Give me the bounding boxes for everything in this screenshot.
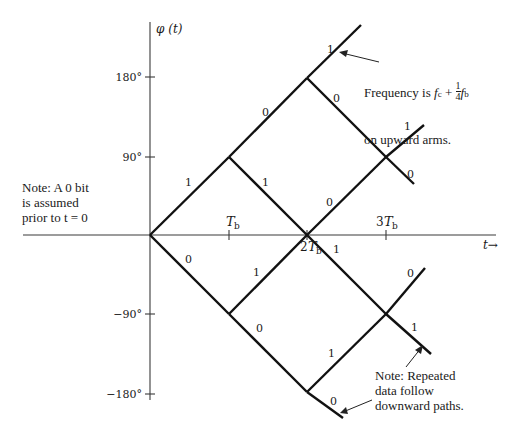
y-tick-label-neg180: −180° — [106, 388, 142, 401]
path-E-C — [229, 235, 307, 314]
note-frequency-line1: Frequency is fc + 14fb — [364, 85, 469, 102]
note-initial-bit: Note: A 0 bit is assumed prior to t = 0 — [22, 180, 89, 225]
phase-trellis-diagram: φ (t) t→ 180° 90° −90° −180° T b 2 T b 3… — [0, 0, 522, 438]
bit-label-G-down: 1 — [411, 321, 418, 334]
bit-label-B-up: 1 — [327, 43, 334, 56]
bit-label-E-C: 1 — [253, 266, 260, 279]
frequency-arrow-head — [339, 50, 348, 57]
svg-text:b: b — [316, 246, 322, 256]
path-O-E — [150, 235, 229, 314]
x-tick-label-Tb: T b — [226, 214, 240, 231]
bit-label-E-F: 0 — [256, 322, 263, 335]
bit-label-C-G: 1 — [333, 243, 340, 256]
note-frequency-line2: on upward arms. — [364, 132, 469, 147]
path-O-A — [150, 157, 229, 235]
path-G-down — [386, 314, 431, 354]
path-A-C — [229, 157, 307, 235]
bit-label-F-G: 1 — [328, 347, 335, 360]
note-frequency: Frequency is fc + 14fb on upward arms. — [364, 55, 469, 177]
x-axis-label: t→ — [483, 238, 498, 252]
svg-text:2: 2 — [300, 240, 308, 254]
y-tick-label-90: 90° — [123, 151, 143, 164]
bit-label-B-D: 0 — [333, 92, 340, 105]
path-B-up — [307, 25, 361, 78]
svg-text:b: b — [392, 221, 398, 231]
note-repeated-data: Note: Repeated data follow downward path… — [375, 368, 464, 413]
bit-label-G-up: 0 — [407, 267, 414, 280]
svg-text:b: b — [234, 221, 240, 231]
x-tick-label-2Tb: 2 T b — [300, 239, 322, 256]
repeated-arrow-line-2 — [343, 400, 372, 412]
bit-label-C-D: 0 — [326, 196, 333, 209]
bit-label-F-down: 0 — [330, 395, 337, 408]
repeated-arrow-head-1 — [415, 345, 423, 354]
svg-text:3: 3 — [376, 215, 384, 229]
y-axis-label: φ (t) — [156, 22, 183, 36]
path-F-down — [307, 392, 343, 418]
bit-label-A-C: 1 — [262, 176, 269, 189]
y-tick-label-180: 180° — [116, 71, 143, 84]
path-G-up — [386, 268, 425, 314]
bit-label-A-B: 0 — [262, 106, 269, 119]
bit-label-O-E: 0 — [185, 253, 192, 266]
repeated-arrow-head-2 — [340, 407, 348, 414]
path-E-F — [229, 314, 307, 392]
x-tick-label-3Tb: 3 T b — [376, 214, 398, 231]
y-tick-label-neg90: −90° — [113, 308, 142, 321]
bit-label-O-A: 1 — [185, 176, 192, 189]
